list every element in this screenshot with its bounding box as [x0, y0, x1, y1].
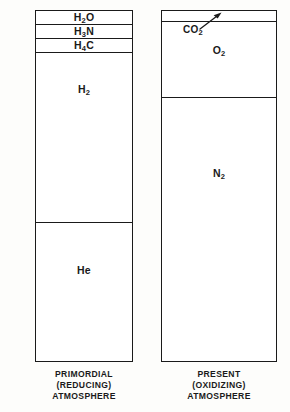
band-n2-label: N2 [213, 168, 225, 179]
present-caption-line-1: PRESENT [156, 369, 282, 380]
primordial-caption-line-3: ATMOSPHERE [26, 391, 142, 402]
band-h3n: H3N [36, 25, 132, 39]
present-atmosphere-column: O2 N2 [161, 10, 277, 362]
present-caption-line-2: (OXIDIZING) [156, 380, 282, 391]
band-h2o: H2O [36, 11, 132, 25]
band-h3n-label: H3N [74, 26, 94, 37]
atmosphere-comparison-figure: H2O H3N H4C H2 He O2 N2 CO2 PRIMORDIAL [0, 0, 290, 412]
band-o2-label: O2 [213, 45, 226, 56]
primordial-caption-line-2: (REDUCING) [26, 380, 142, 391]
band-h2o-label: H2O [74, 12, 95, 23]
band-he: He [36, 223, 132, 361]
band-h2-label: H2 [78, 84, 90, 95]
present-caption: PRESENT (OXIDIZING) ATMOSPHERE [156, 369, 282, 403]
co2-arrow-icon [198, 11, 224, 31]
band-n2: N2 [162, 98, 276, 361]
band-o2: O2 [162, 22, 276, 98]
band-h4c: H4C [36, 39, 132, 53]
primordial-caption: PRIMORDIAL (REDUCING) ATMOSPHERE [26, 369, 142, 403]
primordial-atmosphere-column: H2O H3N H4C H2 He [35, 10, 133, 362]
primordial-caption-line-1: PRIMORDIAL [26, 369, 142, 380]
band-he-label: He [77, 265, 91, 276]
band-h4c-label: H4C [74, 40, 94, 51]
band-h2: H2 [36, 53, 132, 223]
present-caption-line-3: ATMOSPHERE [156, 391, 282, 402]
